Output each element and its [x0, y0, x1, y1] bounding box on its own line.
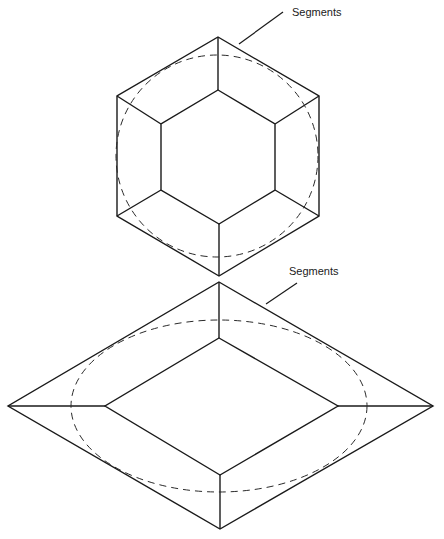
diamond-dashed-ellipse [71, 320, 367, 492]
diamond-label: Segments [289, 265, 339, 277]
diamond-figure: Segments [8, 265, 433, 529]
hexagon-inner [161, 90, 275, 224]
diamond-leader-line [266, 283, 297, 304]
hexagon-segment-edges [117, 37, 319, 276]
hexagon-dashed-circle [116, 55, 318, 257]
diamond-inner [105, 338, 338, 475]
hexagon-label: Segments [292, 6, 342, 18]
segments-diagram: Segments Segments [0, 0, 444, 539]
hexagon-leader-line [239, 12, 283, 44]
hexagon-figure: Segments [116, 6, 342, 276]
